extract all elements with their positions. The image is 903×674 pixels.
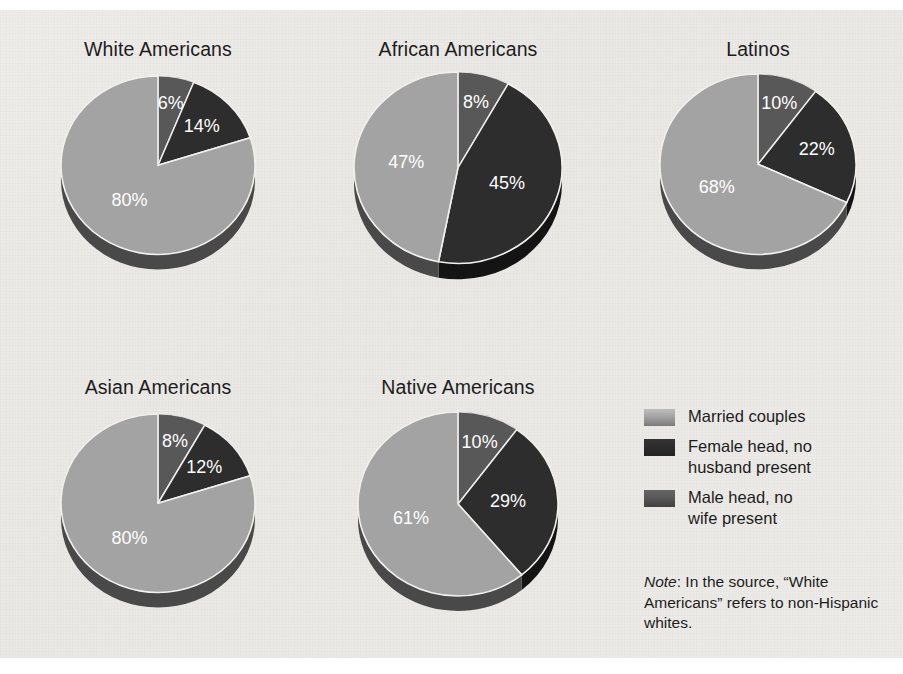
legend-item: Male head, no wife present	[644, 487, 894, 529]
pie-title: African Americans	[318, 38, 598, 61]
slice-label: 47%	[388, 152, 424, 172]
legend-item: Married couples	[644, 406, 894, 427]
figure-plate: White Americans6%14%80%African Americans…	[0, 10, 903, 658]
legend-swatch	[644, 409, 675, 426]
legend: Married couplesFemale head, no husband p…	[644, 406, 894, 539]
slice-label: 80%	[111, 190, 147, 210]
legend-item: Female head, no husband present	[644, 436, 894, 478]
slice-label: 61%	[393, 508, 429, 528]
pie-chart: 8%12%80%	[55, 408, 261, 613]
figure-note: Note: In the source, “White Americans” r…	[644, 572, 892, 634]
pie-title: Asian Americans	[18, 376, 298, 399]
pie-chart: 6%14%80%	[55, 70, 261, 275]
pie-title: Native Americans	[318, 376, 598, 399]
slice-label: 8%	[463, 92, 489, 112]
legend-label: Female head, no husband present	[688, 436, 812, 478]
legend-label: Married couples	[688, 406, 805, 427]
note-text: : In the source, “White Americans” refer…	[644, 573, 878, 631]
legend-swatch	[644, 490, 675, 507]
note-label: Note	[644, 573, 677, 590]
slice-label: 6%	[158, 93, 184, 113]
pie-chart: 10%29%61%	[352, 406, 564, 617]
figure-container: White Americans6%14%80%African Americans…	[0, 0, 903, 674]
slice-label: 29%	[490, 491, 526, 511]
pie-title: Latinos	[618, 38, 898, 61]
pie-chart: 8%45%47%	[348, 66, 568, 285]
slice-label: 14%	[184, 116, 220, 136]
pie-chart: 10%22%68%	[654, 68, 862, 275]
legend-label: Male head, no wife present	[688, 487, 793, 529]
slice-label: 10%	[761, 93, 797, 113]
legend-swatch	[644, 439, 675, 456]
slice-label: 8%	[162, 431, 188, 451]
slice-label: 22%	[799, 139, 835, 159]
slice-label: 68%	[699, 177, 735, 197]
slice-label: 10%	[462, 432, 498, 452]
slice-label: 45%	[489, 173, 525, 193]
pie-title: White Americans	[18, 38, 298, 61]
slice-label: 12%	[186, 457, 222, 477]
slice-label: 80%	[111, 528, 147, 548]
